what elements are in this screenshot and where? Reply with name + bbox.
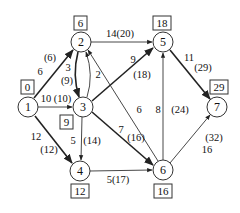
node-6-label: 6 (160, 163, 166, 177)
node-1: 1 0 (18, 80, 38, 117)
node-2-label: 2 (78, 35, 84, 49)
edge-label-1-2-weight: 6 (37, 66, 42, 77)
edge-label-3-6-weight: 7 (118, 124, 123, 135)
node-1-distance: 0 (25, 81, 31, 93)
edge-label-2-5: 14(20) (106, 28, 134, 40)
node-6: 6 16 (153, 160, 173, 198)
edge-label-2-3-weight: 3 (65, 62, 70, 73)
node-7-distance: 29 (214, 81, 226, 93)
edge-label-6-7-path: (32) (205, 132, 223, 144)
edge-labels: (6) 6 10 (10) 12 (12) 3 (9) 2 14(20) 9 (… (31, 28, 223, 186)
edge-label-1-4-weight: 12 (31, 131, 42, 142)
node-4: 4 12 (70, 161, 90, 198)
edge-label-2-3-path: (9) (61, 75, 74, 87)
node-4-distance: 12 (75, 185, 86, 197)
node-7-label: 7 (214, 100, 220, 114)
edge-6-7 (170, 115, 210, 163)
edge-label-5-7-path: (29) (194, 62, 212, 74)
edge-label-3-4-weight: 5 (70, 135, 75, 146)
edge-label-4-6: 5(17) (107, 174, 130, 186)
edge-label-1-4-path: (12) (40, 144, 58, 156)
node-6-distance: 16 (158, 185, 170, 197)
node-2: 2 6 (71, 16, 91, 52)
node-1-label: 1 (25, 100, 31, 114)
edge-label-3-5-weight: 9 (130, 54, 135, 65)
node-3-label: 3 (80, 100, 86, 114)
edge-label-6-5-path: (24) (171, 104, 189, 116)
edge-label-5-7-weight: 11 (184, 52, 194, 63)
edge-label-6-7-weight: 16 (202, 144, 213, 155)
node-3-distance: 9 (64, 116, 70, 128)
node-4-label: 4 (77, 164, 83, 178)
edge-3-4 (81, 117, 82, 160)
node-5: 5 18 (153, 16, 173, 52)
edge-label-3-6-path: (16) (127, 132, 145, 144)
graph-canvas: (6) 6 10 (10) 12 (12) 3 (9) 2 14(20) 9 (… (0, 0, 240, 213)
edge-3-2 (86, 52, 90, 97)
edge-label-6-2-weight: 6 (136, 104, 141, 115)
edge-4-6 (90, 170, 152, 171)
edge-label-3-2-weight: 2 (95, 69, 100, 80)
edge-label-6-5-weight: 8 (155, 104, 160, 115)
edge-2-3 (75, 52, 79, 97)
edge-label-3-5-path: (18) (133, 69, 151, 81)
edge-label-1-2-path: (6) (44, 52, 57, 64)
edge-label-1-3: 10 (10) (41, 93, 72, 105)
edge-label-3-4-path: (14) (83, 135, 101, 147)
node-5-distance: 18 (157, 17, 169, 29)
node-5-label: 5 (160, 35, 166, 49)
node-2-distance: 6 (78, 17, 84, 29)
graph-diagram: (6) 6 10 (10) 12 (12) 3 (9) 2 14(20) 9 (… (0, 0, 240, 213)
